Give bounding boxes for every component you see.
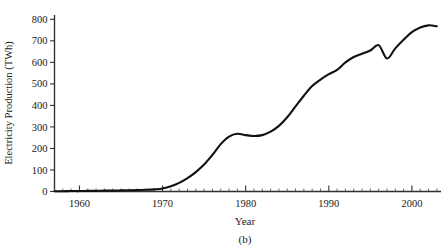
y-tick-label: 600 [32,57,48,68]
y-tick-label: 700 [32,35,48,46]
y-axis-title: Electricity Production (TWh) [3,41,15,165]
x-tick-label: 2000 [401,198,422,209]
panel-label: (b) [239,233,252,246]
x-tick-label: 1990 [318,198,339,209]
chart-figure: 0100200300400500600700800 19601970198019… [0,0,443,246]
y-tick-label: 300 [32,122,48,133]
y-tick-label: 200 [32,143,48,154]
y-tick-label: 800 [32,14,48,25]
y-tick-label: 0 [42,186,47,197]
y-tick-label: 100 [32,165,48,176]
chart-background [0,0,443,246]
line-chart-plot: 0100200300400500600700800 19601970198019… [0,0,443,246]
x-axis-title: Year [235,215,256,227]
y-tick-label: 500 [32,78,48,89]
x-tick-label: 1960 [69,198,90,209]
x-tick-label: 1970 [152,198,173,209]
x-tick-label: 1980 [235,198,256,209]
y-tick-label: 400 [32,100,48,111]
y-axis-tick-labels: 0100200300400500600700800 [32,14,48,197]
